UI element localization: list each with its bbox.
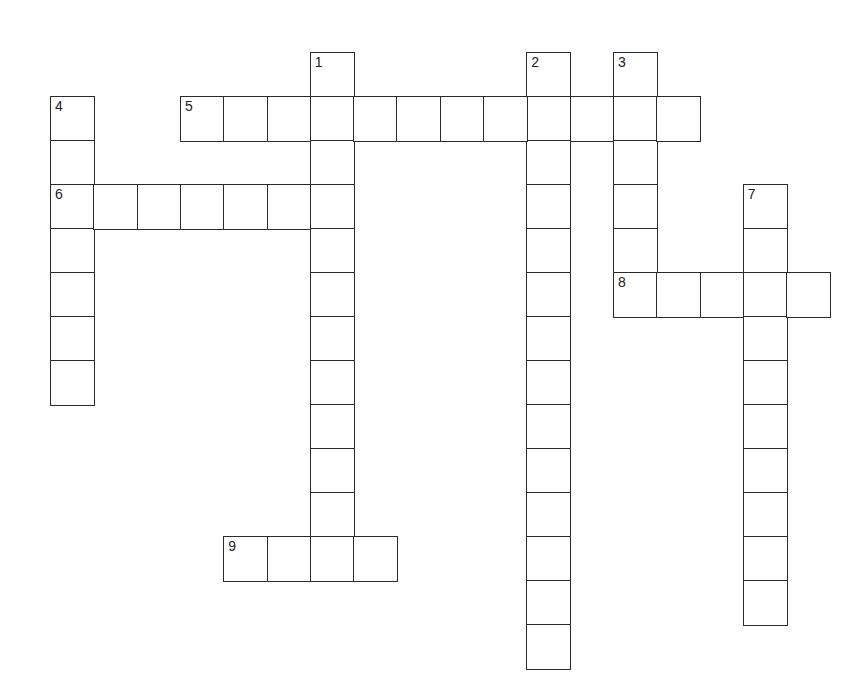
crossword-cell[interactable] — [526, 272, 571, 318]
crossword-cell[interactable] — [526, 316, 571, 362]
crossword-cell[interactable] — [396, 96, 441, 142]
crossword-cell[interactable] — [526, 360, 571, 406]
crossword-grid: 123846579 — [0, 0, 862, 694]
crossword-cell[interactable] — [526, 140, 571, 186]
crossword-cell[interactable] — [310, 228, 355, 274]
crossword-cell[interactable] — [743, 360, 788, 406]
crossword-cell[interactable] — [310, 404, 355, 450]
crossword-cell[interactable] — [310, 184, 355, 230]
crossword-cell[interactable] — [310, 140, 355, 186]
crossword-cell[interactable] — [656, 96, 701, 142]
crossword-cell[interactable] — [526, 624, 571, 670]
crossword-cell[interactable] — [310, 96, 355, 142]
crossword-cell[interactable]: 3 — [613, 52, 658, 98]
crossword-cell[interactable] — [50, 360, 95, 406]
crossword-cell[interactable] — [700, 272, 745, 318]
crossword-cell[interactable] — [267, 96, 312, 142]
crossword-cell[interactable] — [786, 272, 831, 318]
crossword-cell[interactable] — [613, 96, 658, 142]
crossword-cell[interactable]: 2 — [526, 52, 571, 98]
crossword-cell[interactable] — [526, 492, 571, 538]
crossword-cell[interactable] — [743, 580, 788, 626]
clue-number: 7 — [748, 187, 756, 201]
crossword-cell[interactable] — [570, 96, 615, 142]
clue-number: 8 — [618, 275, 626, 289]
crossword-cell[interactable] — [137, 184, 182, 230]
clue-number: 5 — [185, 99, 193, 113]
crossword-cell[interactable] — [526, 404, 571, 450]
crossword-cell[interactable] — [613, 140, 658, 186]
crossword-cell[interactable] — [93, 184, 138, 230]
crossword-cell[interactable] — [743, 492, 788, 538]
clue-number: 9 — [228, 539, 236, 553]
crossword-cell[interactable] — [310, 316, 355, 362]
crossword-cell[interactable]: 5 — [180, 96, 225, 142]
crossword-cell[interactable] — [267, 536, 312, 582]
crossword-cell[interactable] — [613, 184, 658, 230]
crossword-cell[interactable] — [743, 404, 788, 450]
crossword-cell[interactable] — [267, 184, 312, 230]
crossword-cell[interactable] — [353, 536, 398, 582]
crossword-cell[interactable] — [743, 536, 788, 582]
clue-number: 2 — [531, 55, 539, 69]
crossword-cell[interactable]: 1 — [310, 52, 355, 98]
crossword-cell[interactable]: 8 — [613, 272, 658, 318]
clue-number: 4 — [55, 99, 63, 113]
crossword-cell[interactable] — [526, 448, 571, 494]
crossword-cell[interactable] — [743, 316, 788, 362]
crossword-cell[interactable] — [526, 580, 571, 626]
crossword-cell[interactable] — [310, 448, 355, 494]
crossword-cell[interactable] — [526, 96, 571, 142]
crossword-cell[interactable] — [526, 228, 571, 274]
crossword-cell[interactable] — [50, 316, 95, 362]
crossword-cell[interactable] — [656, 272, 701, 318]
crossword-cell[interactable] — [310, 360, 355, 406]
clue-number: 6 — [55, 187, 63, 201]
crossword-cell[interactable] — [50, 140, 95, 186]
crossword-cell[interactable] — [310, 492, 355, 538]
crossword-cell[interactable]: 7 — [743, 184, 788, 230]
crossword-cell[interactable] — [743, 228, 788, 274]
crossword-cell[interactable] — [310, 272, 355, 318]
crossword-cell[interactable] — [353, 96, 398, 142]
crossword-cell[interactable] — [440, 96, 485, 142]
crossword-cell[interactable] — [180, 184, 225, 230]
crossword-cell[interactable] — [223, 184, 268, 230]
crossword-cell[interactable] — [526, 184, 571, 230]
crossword-cell[interactable]: 4 — [50, 96, 95, 142]
crossword-cell[interactable] — [310, 536, 355, 582]
crossword-cell[interactable] — [483, 96, 528, 142]
crossword-cell[interactable]: 6 — [50, 184, 95, 230]
clue-number: 1 — [315, 55, 323, 69]
crossword-cell[interactable]: 9 — [223, 536, 268, 582]
crossword-cell[interactable] — [743, 272, 788, 318]
crossword-cell[interactable] — [50, 228, 95, 274]
crossword-cell[interactable] — [526, 536, 571, 582]
crossword-cell[interactable] — [743, 448, 788, 494]
clue-number: 3 — [618, 55, 626, 69]
crossword-cell[interactable] — [613, 228, 658, 274]
crossword-cell[interactable] — [50, 272, 95, 318]
crossword-cell[interactable] — [223, 96, 268, 142]
